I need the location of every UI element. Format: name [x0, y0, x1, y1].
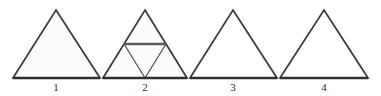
triangle-4-shape — [280, 10, 368, 78]
triangle-4-group — [280, 10, 368, 78]
triangle-3-shape — [190, 10, 277, 78]
triangle-1-group — [13, 10, 100, 78]
triangle-1-shape — [13, 10, 100, 78]
triangles-canvas — [0, 0, 381, 96]
triangle-2-group — [103, 10, 187, 78]
triangles-figure: 1 2 3 4 — [0, 0, 381, 96]
triangle-3-group — [190, 10, 277, 78]
